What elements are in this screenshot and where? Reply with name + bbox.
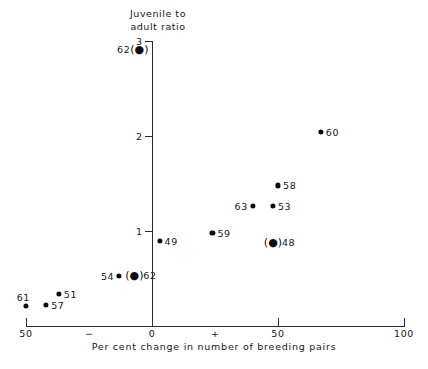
x-axis-line: [26, 326, 405, 327]
data-point-label: 54: [101, 270, 114, 281]
data-point-label: 51: [64, 288, 77, 299]
data-point-label: 57: [51, 300, 64, 311]
data-point-bracketed: (●): [125, 269, 143, 280]
x-tick-mark: [26, 318, 27, 326]
y-tick-mark: [145, 231, 153, 232]
data-point-label: 62: [117, 43, 130, 54]
x-tick-label: 50: [19, 328, 32, 339]
data-point-label: 61: [17, 292, 30, 303]
data-point-label: 60: [326, 127, 339, 138]
x-tick-mark: [278, 318, 279, 326]
data-point-marker: [56, 291, 61, 296]
data-point-label: 58: [283, 180, 296, 191]
scatter-plot-figure: Juvenile to adult ratio 50050100 123 −+ …: [0, 0, 428, 369]
data-point-label: 53: [278, 201, 291, 212]
data-point-bracketed: (●): [130, 43, 148, 54]
y-axis-line: [152, 42, 153, 327]
y-tick-label: 2: [128, 131, 142, 142]
data-point-label: 63: [235, 201, 248, 212]
x-axis-minus-sign: −: [85, 328, 93, 339]
data-point-marker: [270, 204, 275, 209]
data-point-label: 49: [165, 235, 178, 246]
data-point-marker: [210, 230, 215, 235]
data-point-marker: [250, 204, 255, 209]
data-point-label: 59: [217, 227, 230, 238]
y-tick-label: 1: [128, 226, 142, 237]
x-tick-label: 100: [394, 328, 414, 339]
x-tick-mark: [404, 318, 405, 326]
x-axis-plus-sign: +: [211, 328, 219, 339]
y-axis-title: Juvenile to adult ratio: [110, 8, 206, 33]
x-tick-label: 0: [149, 328, 156, 339]
x-tick-label: 50: [271, 328, 284, 339]
x-tick-mark: [152, 318, 153, 326]
data-point-bracketed: (●): [264, 237, 282, 248]
data-point-marker: [275, 183, 280, 188]
data-point-marker: [157, 238, 162, 243]
data-point-marker: [117, 273, 122, 278]
x-axis-title: Per cent change in number of breeding pa…: [0, 341, 428, 352]
data-point-marker: [23, 303, 28, 308]
data-point-marker: [318, 130, 323, 135]
y-tick-mark: [145, 136, 153, 137]
data-point-label: 62: [143, 269, 156, 280]
data-point-marker: [44, 303, 49, 308]
data-point-label: 48: [282, 237, 295, 248]
